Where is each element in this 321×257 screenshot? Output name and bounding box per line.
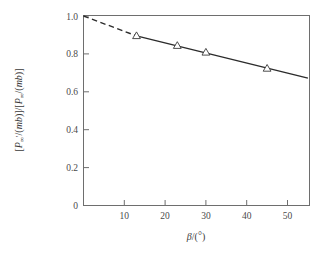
chart-figure: 10 20 30 40 50 0 0.2 0.4 0.6 0.8 1.0 [0, 0, 321, 257]
y-axis-close-1: )] [13, 110, 25, 117]
x-tick-label: 10 [120, 211, 130, 221]
y-axis-close-2: )] [13, 68, 25, 75]
plot-frame [84, 16, 310, 206]
x-tick-labels: 10 20 30 40 50 [120, 211, 293, 221]
y-tick-labels: 0 0.2 0.4 0.6 0.8 1.0 [66, 12, 78, 212]
x-tick-label: 50 [283, 211, 293, 221]
x-tick-label: 20 [160, 211, 170, 221]
y-axis-p-1: P [13, 142, 24, 149]
y-tick-label: 1.0 [66, 12, 78, 22]
x-tick-label: 40 [242, 211, 252, 221]
x-axis-close: ) [202, 231, 205, 243]
y-axis-mb-1: mb [13, 117, 24, 129]
y-axis-p-2: P [13, 98, 24, 105]
y-tick-label: 0.6 [66, 87, 78, 97]
y-tick-label: 0.8 [66, 49, 78, 59]
y-axis-mb-2: mb [13, 75, 24, 87]
x-tick-label: 30 [201, 211, 211, 221]
y-axis-title: [P∞′/(mb)]/[P∞/(mb)] [13, 68, 25, 151]
y-tick-label: 0.2 [66, 163, 78, 173]
y-tick-label: 0.4 [66, 125, 78, 135]
y-tick-label: 0 [73, 201, 78, 211]
x-axis-title: β/(°) [186, 230, 205, 243]
chart-plot-area: 10 20 30 40 50 0 0.2 0.4 0.6 0.8 1.0 [0, 0, 321, 257]
